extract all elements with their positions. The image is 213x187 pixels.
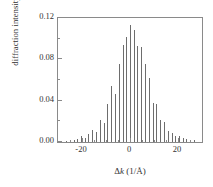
x-axis-minor-tick	[70, 140, 71, 142]
y-axis-tick-label: 0.08	[14, 52, 54, 62]
diffraction-peak	[149, 78, 150, 142]
diffraction-peak	[74, 140, 75, 142]
diffraction-peak	[100, 120, 101, 142]
diffraction-peak	[202, 17, 203, 142]
diffraction-peak	[126, 37, 127, 142]
diffraction-peak	[107, 104, 108, 142]
y-axis-tick	[58, 141, 62, 142]
diffraction-peak	[96, 132, 97, 142]
diffraction-peak	[77, 139, 78, 142]
x-axis-minor-tick	[154, 140, 155, 142]
x-axis-tick	[130, 138, 131, 142]
x-axis-minor-tick	[166, 140, 167, 142]
x-axis-minor-tick	[118, 140, 119, 142]
y-axis-minor-tick	[58, 79, 60, 80]
diffraction-peak	[160, 120, 161, 142]
diffraction-peak	[85, 138, 86, 142]
diffraction-peak	[92, 130, 93, 142]
diffraction-peak	[119, 64, 120, 142]
y-axis-tick	[58, 17, 62, 18]
x-axis-tick-label: 20	[157, 144, 197, 154]
diffraction-peak	[130, 25, 131, 142]
y-axis-tick	[58, 58, 62, 59]
diffraction-peak	[179, 136, 180, 142]
diffraction-peak	[172, 133, 173, 142]
diffraction-peak	[141, 47, 142, 142]
y-axis-minor-tick	[58, 120, 60, 121]
diffraction-peak	[66, 141, 67, 142]
diffraction-peak	[88, 134, 89, 142]
diffraction-peak	[134, 30, 135, 142]
diffraction-peak	[123, 45, 124, 142]
x-axis-tick-label: 0	[109, 144, 149, 154]
diffraction-peak	[145, 64, 146, 142]
y-axis-tick-label: 0.04	[14, 94, 54, 104]
diffraction-peak	[183, 138, 184, 142]
diffraction-peak	[164, 122, 165, 142]
x-axis-minor-tick	[106, 140, 107, 142]
diffraction-peak	[175, 136, 176, 142]
y-axis-tick-label: 0.12	[14, 11, 54, 21]
y-axis-tick-label: 0.00	[14, 135, 54, 145]
x-axis-title: Δk (1/Å)	[57, 166, 203, 176]
diffraction-peak	[153, 103, 154, 142]
diffraction-peak	[168, 131, 169, 142]
y-axis-minor-tick	[58, 38, 60, 39]
diffraction-peak	[111, 86, 112, 142]
x-axis-title-units: (1/Å)	[126, 166, 146, 176]
diffraction-peak	[194, 140, 195, 142]
diffraction-peak	[104, 123, 105, 142]
x-axis-minor-tick	[94, 140, 95, 142]
plot-area	[57, 17, 203, 143]
x-axis-minor-tick	[142, 140, 143, 142]
diffraction-peak	[115, 94, 116, 142]
diffraction-peak	[156, 104, 157, 142]
diffraction-intensity-chart: diffraction intensity Δk (1/Å) 0.000.040…	[0, 0, 213, 187]
x-axis-title-k: k	[120, 166, 124, 176]
x-axis-tick	[178, 138, 179, 142]
diffraction-peak	[137, 46, 138, 142]
y-axis-tick	[58, 100, 62, 101]
x-axis-tick-label: -20	[61, 144, 101, 154]
x-axis-minor-tick	[190, 140, 191, 142]
x-axis-tick	[82, 138, 83, 142]
diffraction-peak	[186, 139, 187, 142]
